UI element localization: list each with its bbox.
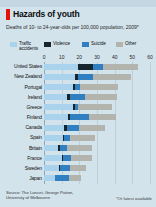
bar-segment-traffic-accidents [44, 94, 67, 100]
y-axis-label-sweden: Sweden [25, 165, 42, 171]
bar-segment-traffic-accidents [44, 84, 73, 90]
bar-segment-other [70, 135, 96, 141]
legend-label-other: Other [125, 41, 136, 46]
bar-segment-other [89, 114, 116, 120]
x-tick-label-60: 60 [147, 55, 152, 60]
bar-segment-suicide [55, 175, 68, 181]
y-axis-label-ireland: Ireland [28, 94, 42, 100]
bar-segment-other [80, 84, 118, 90]
chart-subtitle: Deaths of 10- to 24-year-olds per 100,00… [6, 24, 152, 30]
bar-segment-traffic-accidents [44, 165, 59, 171]
x-tick-label-40: 40 [112, 55, 117, 60]
footnote: *Or latest available [116, 196, 152, 201]
x-tick-label-50: 50 [130, 55, 135, 60]
bar-segment-other [71, 155, 92, 161]
bar-segment-traffic-accidents [44, 74, 75, 80]
bar-row[interactable] [44, 165, 86, 171]
x-tick-label-30: 30 [94, 55, 99, 60]
legend-item-other: Other [116, 41, 136, 47]
bar-row[interactable] [44, 74, 131, 80]
y-axis-label-new-zealand: New Zealand [14, 73, 42, 79]
gridline-50 [132, 62, 133, 184]
bar-segment-other [78, 104, 112, 110]
bar-segment-other [79, 125, 105, 131]
y-axis-label-finland: Finland [27, 114, 42, 120]
bar-row[interactable] [44, 125, 105, 131]
legend-item-violence: Violence [44, 41, 70, 47]
y-axis-label-portugal: Portugal [25, 84, 42, 90]
bar-segment-suicide [78, 74, 93, 80]
bar-segment-suicide [63, 155, 71, 161]
bar-segment-other [69, 175, 81, 181]
x-tick-label-0: 0 [43, 55, 46, 60]
legend-item-suicide: Suicide [82, 41, 106, 47]
bar-segment-other [85, 94, 117, 100]
legend-label-traffic: Traffic accidents [19, 41, 40, 52]
legend-swatch-other [116, 42, 123, 47]
y-axis-label-japan: Japan [29, 175, 42, 181]
bar-segment-other [93, 74, 132, 80]
legend-swatch-violence [44, 42, 51, 47]
bar-row[interactable] [44, 175, 81, 181]
gridline-40 [115, 62, 116, 184]
bar-segment-suicide [93, 64, 104, 70]
bar-segment-traffic-accidents [44, 114, 68, 120]
bar-segment-traffic-accidents [44, 175, 55, 181]
bar-segment-suicide [70, 114, 89, 120]
y-axis-label-united-states: United States [14, 63, 42, 69]
bar-row[interactable] [44, 135, 95, 141]
bar-segment-suicide [60, 145, 67, 151]
bar-segment-suicide [70, 94, 86, 100]
bar-row[interactable] [44, 114, 116, 120]
x-axis-tick-labels: 0102030405060 [44, 55, 150, 62]
y-axis-label-britain: Britain [29, 145, 42, 151]
y-axis-label-spain: Spain [30, 134, 42, 140]
bar-segment-traffic-accidents [44, 135, 63, 141]
legend-label-suicide: Suicide [91, 41, 106, 46]
legend-swatch-suicide [82, 42, 89, 47]
bar-row[interactable] [44, 155, 92, 161]
bar-segment-suicide [67, 125, 79, 131]
legend-label-violence: Violence [53, 41, 70, 46]
y-axis-category-labels: United StatesNew ZealandPortugalIrelandG… [2, 62, 43, 184]
bar-segment-suicide [60, 165, 70, 171]
brand-accent-bar [6, 9, 10, 20]
x-tick-label-10: 10 [59, 55, 64, 60]
legend-swatch-traffic [10, 42, 17, 47]
bar-segment-other [103, 64, 138, 70]
bar-segment-traffic-accidents [44, 155, 62, 161]
bar-segment-traffic-accidents [44, 145, 58, 151]
source-note: Source: The Lancet, George Patton, Unive… [6, 190, 86, 200]
bar-segment-traffic-accidents [44, 104, 73, 110]
bar-segment-violence [78, 64, 92, 70]
page-title: Hazards of youth [13, 9, 80, 19]
bar-segment-traffic-accidents [44, 64, 78, 70]
y-axis-label-canada: Canada [25, 124, 42, 130]
plot-area [44, 62, 150, 184]
x-tick-label-20: 20 [77, 55, 82, 60]
gridline-60 [150, 62, 151, 184]
bar-row[interactable] [44, 64, 138, 70]
y-axis-label-france: France [27, 155, 42, 161]
y-axis-label-greece: Greece [27, 104, 43, 110]
bar-row[interactable] [44, 145, 92, 151]
bar-row[interactable] [44, 104, 112, 110]
bar-row[interactable] [44, 84, 118, 90]
chart-legend: Traffic accidents Violence Suicide Other [6, 41, 154, 53]
card-top-rule [0, 0, 156, 7]
bar-segment-other [70, 165, 86, 171]
bar-row[interactable] [44, 94, 117, 100]
gridline-30 [97, 62, 98, 184]
legend-item-traffic: Traffic accidents [10, 41, 40, 52]
chart-card: Hazards of youth Deaths of 10- to 24-yea… [0, 0, 156, 207]
bar-segment-traffic-accidents [44, 125, 64, 131]
bar-segment-other [67, 145, 92, 151]
